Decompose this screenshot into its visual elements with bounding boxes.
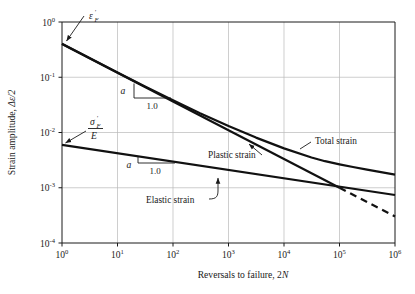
x-tick-label-10e2: 102 <box>167 248 180 260</box>
elastic-strain-label: Elastic strain <box>146 195 195 205</box>
y-tick-label-10e0: 100 <box>42 16 56 28</box>
x-tick-label-10e0: 100 <box>56 248 70 260</box>
x-tick-label-10e1: 101 <box>111 248 124 260</box>
total-strain-leader <box>300 142 311 149</box>
x-tick-label-10e4: 104 <box>278 248 292 260</box>
slope-triangle-elastic-run: 1.0 <box>149 166 161 176</box>
slope-triangle-plastic-symbol: a <box>121 85 126 96</box>
eps-f-prime-label: ε ′ F <box>89 8 100 23</box>
y-tick-label-10e-2: 10-2 <box>40 126 55 138</box>
y-tick-label-10e-4: 10-4 <box>40 237 56 249</box>
y-tick-label-10e-1: 10-1 <box>40 71 55 83</box>
grid-lines <box>62 22 395 243</box>
plastic-strain-label: Plastic strain <box>208 150 256 160</box>
tick-marks <box>59 22 396 247</box>
x-tick-label-10e5: 105 <box>333 248 347 260</box>
total-strain-label: Total strain <box>315 136 357 146</box>
x-tick-label-10e3: 103 <box>222 248 236 260</box>
eps-f-prime-leader-arrow <box>67 16 85 41</box>
x-axis-title: Reversals to failure, 2N <box>198 269 289 280</box>
fatigue-strain-life-figure: a 1.0 a 1.0 ε ′ F <box>0 0 415 294</box>
youngs-modulus-symbol: E <box>90 130 97 141</box>
y-axis-title: Strain amplitude, Δε/2 <box>6 90 17 176</box>
slope-triangle-elastic-symbol: a <box>127 159 132 170</box>
x-tick-label-10e6: 106 <box>389 248 403 260</box>
sigma-f-prime-symbol: σ <box>90 116 96 127</box>
elastic-strain-leader-arrow <box>209 178 218 199</box>
chart-canvas: a 1.0 a 1.0 ε ′ F <box>0 0 415 294</box>
x-tick-labels: 100 101 102 103 104 105 106 <box>56 248 403 260</box>
eps-f-prime-prime: ′ <box>95 8 97 15</box>
slope-triangle-plastic-run: 1.0 <box>146 101 158 111</box>
y-tick-label-10e-3: 10-3 <box>40 181 56 193</box>
eps-f-prime-symbol: ε <box>89 10 93 21</box>
sigma-f-prime-subscript: F <box>96 122 102 129</box>
sigma-f-prime-prime: ′ <box>97 114 99 121</box>
y-tick-labels: 100 10-1 10-2 10-3 10-4 <box>40 16 56 249</box>
sigma-f-prime-over-E-label: σ ′ F E <box>88 114 103 141</box>
plastic-strain-dashed-extension <box>340 188 396 217</box>
